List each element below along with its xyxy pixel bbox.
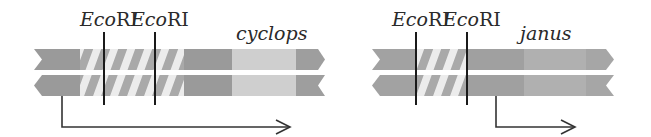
janus-top-strand — [372, 49, 614, 70]
ecori-label-3: EcoRI — [391, 8, 450, 30]
cyclops-construct: EcoRI EcoRI cyclops — [34, 8, 325, 134]
janus-transcript-arrow — [496, 96, 575, 134]
janus-construct: EcoRI EcoRI janus — [372, 8, 614, 134]
ecori-label-4: EcoRI — [442, 8, 501, 30]
ecori-label-2: EcoRI — [130, 8, 189, 30]
cyclops-top-strand — [34, 49, 325, 70]
ecori-label-1: EcoRI — [79, 8, 138, 30]
gene-label-janus: janus — [516, 22, 572, 44]
cyclops-bottom-strand — [34, 75, 325, 96]
gene-label-cyclops: cyclops — [236, 22, 308, 44]
gene-diagram: EcoRI EcoRI cyclops EcoRI — [0, 0, 651, 137]
janus-bottom-strand — [372, 75, 614, 96]
cyclops-transcript-arrow — [62, 96, 290, 134]
